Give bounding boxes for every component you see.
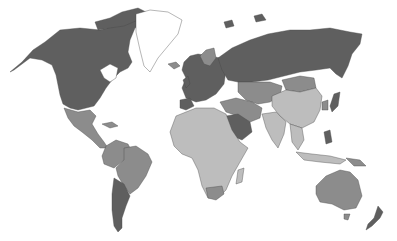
region-korea[interactable] (322, 100, 328, 110)
world-map (0, 0, 397, 241)
